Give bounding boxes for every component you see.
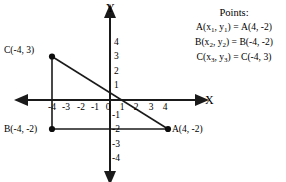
- legend-sub-y: 3: [224, 56, 228, 64]
- x-tick-label: 4: [160, 103, 170, 113]
- legend-row-B: B(x2, y2) = B(-4, -2): [182, 35, 286, 50]
- legend-row-C: C(x3, y3) = C(-4, 3): [182, 50, 286, 65]
- legend-value: C(-4, 3): [241, 51, 271, 62]
- x-tick-label: -4: [45, 103, 59, 113]
- legend-sub-x: 2: [209, 41, 213, 49]
- point-marker-B: [49, 126, 55, 132]
- legend-row-A: A(x1, y1) = A(4, -2): [182, 20, 286, 35]
- legend-equals: =: [233, 51, 238, 62]
- legend-equals: =: [233, 21, 238, 32]
- y-tick-label: -1: [112, 111, 124, 121]
- legend-var-y: y: [218, 36, 223, 47]
- legend-value: B(-4, -2): [239, 36, 273, 47]
- legend-value: A(4, -2): [241, 21, 272, 32]
- legend-sub-y: 2: [223, 41, 227, 49]
- legend-equals: =: [232, 36, 237, 47]
- point-label-A: A(4, -2): [172, 125, 203, 135]
- x-tick-label: -2: [74, 103, 88, 113]
- points-legend: Points: A(x1, y1) = A(4, -2) B(x2, y2) =…: [182, 6, 286, 65]
- x-tick-label: -1: [88, 103, 102, 113]
- legend-sub-x: 3: [211, 56, 215, 64]
- point-marker-A: [165, 126, 171, 132]
- coordinate-plane-figure: X Y -4 -3 -2 -1 0 1 2 3 4 4 3 2 1 -1 -2 …: [0, 0, 286, 182]
- y-tick-label: 3: [114, 52, 124, 62]
- y-tick-label: -3: [112, 140, 124, 150]
- legend-title: Points:: [182, 6, 286, 19]
- x-axis-label: X: [205, 94, 214, 106]
- y-tick-label: 1: [114, 81, 124, 91]
- y-axis-label: Y: [106, 2, 115, 14]
- legend-sub-y: 1: [224, 26, 228, 34]
- x-tick-label: -3: [59, 103, 73, 113]
- point-marker-C: [49, 53, 55, 59]
- legend-point-name: A: [196, 21, 203, 32]
- y-tick-label: 4: [114, 38, 124, 48]
- point-label-B: B(-4, -2): [4, 125, 37, 135]
- y-tick-label: -2: [112, 125, 124, 135]
- point-label-C: C(-4, 3): [4, 46, 34, 56]
- x-tick-label: 3: [146, 103, 156, 113]
- legend-sub-x: 1: [211, 26, 215, 34]
- y-tick-label: -4: [112, 154, 124, 164]
- x-tick-label: 2: [131, 103, 141, 113]
- y-tick-label: 2: [114, 67, 124, 77]
